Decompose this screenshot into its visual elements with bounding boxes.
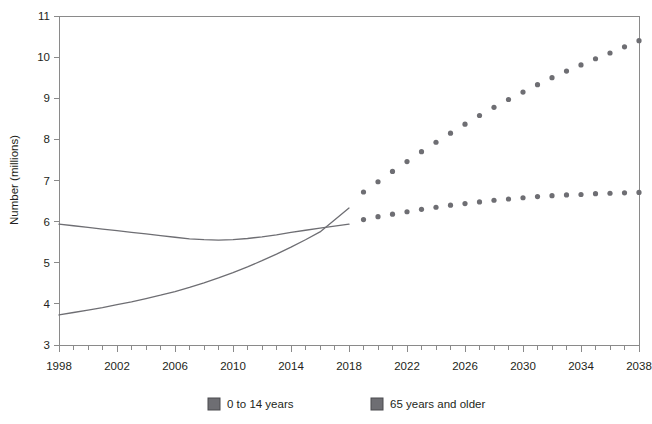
series-projection-dot [535, 82, 540, 87]
series-projection-dot [636, 190, 641, 195]
series-1 [59, 190, 642, 240]
legend-swatch [371, 398, 383, 410]
series-projection-dot [564, 192, 569, 197]
series-projection-dot [564, 69, 569, 74]
series-projection-dot [622, 44, 627, 49]
legend-item-1[interactable]: 0 to 14 years [208, 398, 294, 410]
series-projection-dot [390, 212, 395, 217]
y-tick-label: 5 [44, 257, 50, 269]
x-axis-ticks [59, 345, 639, 352]
series-projection-dot [433, 140, 438, 145]
x-tick-label: 2026 [452, 360, 478, 372]
series-projection-dot [549, 193, 554, 198]
chart-legend: 0 to 14 years65 years and older [208, 398, 485, 410]
legend-label: 65 years and older [390, 398, 485, 410]
series-projection-dot [448, 131, 453, 136]
x-tick-label: 2030 [510, 360, 536, 372]
series-projection-dot [622, 190, 627, 195]
series-solid-line [59, 224, 349, 240]
y-axis-tick-labels: 34567891011 [37, 10, 50, 351]
x-tick-label: 2018 [336, 360, 362, 372]
x-axis-tick-labels: 1998200220062010201420182022202620302034… [46, 360, 652, 372]
y-axis-ticks [54, 16, 59, 345]
y-axis-title: Number (millions) [8, 135, 20, 225]
series-projection-dot [607, 191, 612, 196]
legend-label: 0 to 14 years [227, 398, 294, 410]
series-projection-dot [462, 122, 467, 127]
y-tick-label: 10 [37, 51, 50, 63]
x-tick-label: 2034 [568, 360, 594, 372]
x-tick-label: 2010 [220, 360, 246, 372]
series-projection-dot [520, 195, 525, 200]
y-tick-label: 6 [44, 216, 50, 228]
series-projection-dot [578, 62, 583, 67]
x-tick-label: 2002 [104, 360, 130, 372]
series-projection-dot [477, 199, 482, 204]
series-projection-dot [506, 196, 511, 201]
series-projection-dot [419, 207, 424, 212]
series-projection-dot [404, 159, 409, 164]
series-projection-dot [462, 201, 467, 206]
series-projection-dot [491, 198, 496, 203]
series-projection-dot [375, 214, 380, 219]
plot-frame [59, 16, 639, 345]
series-projection-dot [361, 189, 366, 194]
population-projection-chart: 34567891011 1998200220062010201420182022… [0, 0, 652, 424]
series-projection-dot [491, 105, 496, 110]
series-layer [59, 38, 642, 315]
series-projection-dot [607, 50, 612, 55]
legend-swatch [208, 398, 220, 410]
series-projection-dot [535, 194, 540, 199]
y-tick-label: 11 [38, 10, 50, 22]
series-projection-dot [520, 89, 525, 94]
series-projection-dot [419, 149, 424, 154]
y-tick-label: 3 [44, 339, 50, 351]
series-projection-dot [477, 113, 482, 118]
x-tick-label: 2006 [162, 360, 188, 372]
series-projection-dot [433, 205, 438, 210]
x-tick-label: 2014 [278, 360, 304, 372]
y-tick-label: 4 [44, 298, 51, 310]
series-projection-dot [506, 97, 511, 102]
series-projection-dot [390, 169, 395, 174]
chart-container: 34567891011 1998200220062010201420182022… [0, 0, 652, 424]
series-projection-dot [361, 217, 366, 222]
series-projection-dot [636, 38, 641, 43]
series-projection-dot [448, 203, 453, 208]
series-projection-dot [593, 56, 598, 61]
x-tick-label: 2022 [394, 360, 420, 372]
series-projection-dot [578, 192, 583, 197]
series-projection-dot [593, 191, 598, 196]
series-projection-dot [404, 209, 409, 214]
series-projection-dot [549, 75, 554, 80]
y-tick-label: 8 [44, 133, 50, 145]
legend-item-2[interactable]: 65 years and older [371, 398, 485, 410]
y-tick-label: 9 [44, 92, 50, 104]
x-tick-label: 2038 [626, 360, 652, 372]
series-solid-line [59, 208, 349, 315]
x-tick-label: 1998 [46, 360, 72, 372]
y-tick-label: 7 [44, 175, 50, 187]
series-2 [59, 38, 642, 315]
series-projection-dot [375, 179, 380, 184]
